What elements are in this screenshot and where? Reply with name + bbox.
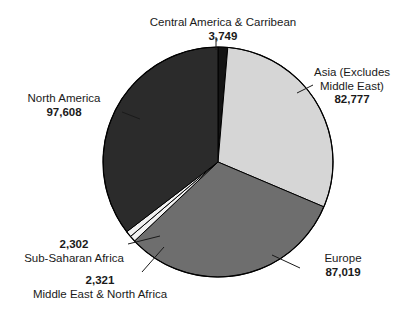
- slice-label-north-america: North America 97,608: [8, 92, 120, 119]
- slice-label-middle-east-north-africa-value: 2,321: [2, 274, 198, 288]
- slice-label-central-america: Central America & Carribean 3,749: [128, 16, 318, 43]
- slice-label-middle-east-north-africa-name: Middle East & North Africa: [2, 288, 198, 302]
- slice-label-central-america-name: Central America & Carribean: [128, 16, 318, 30]
- slice-label-north-america-name: North America: [8, 92, 120, 106]
- slice-label-europe: Europe 87,019: [300, 252, 386, 279]
- slice-label-central-america-value: 3,749: [128, 30, 318, 44]
- slice-label-europe-value: 87,019: [300, 266, 386, 280]
- slice-label-asia-name-line2: Middle East): [300, 80, 404, 94]
- slice-label-middle-east-north-africa: 2,321 Middle East & North Africa: [2, 274, 198, 301]
- slice-label-sub-saharan-africa: 2,302 Sub-Saharan Africa: [2, 238, 146, 265]
- slice-label-asia: Asia (Excludes Middle East) 82,777: [300, 66, 404, 107]
- slice-label-sub-saharan-africa-value: 2,302: [2, 238, 146, 252]
- slice-label-europe-name: Europe: [300, 252, 386, 266]
- slice-label-sub-saharan-africa-name: Sub-Saharan Africa: [2, 252, 146, 266]
- slice-label-asia-value: 82,777: [300, 93, 404, 107]
- slice-label-north-america-value: 97,608: [8, 106, 120, 120]
- pie-chart-figure: Central America & Carribean: 3,749Asia (…: [0, 0, 408, 322]
- slice-label-asia-name-line1: Asia (Excludes: [300, 66, 404, 80]
